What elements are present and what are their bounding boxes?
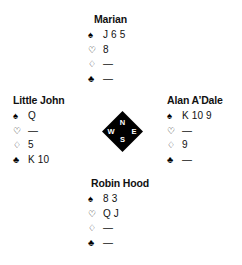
club-icon: ♣	[88, 236, 103, 251]
heart-icon: ♡	[167, 124, 182, 139]
south-diamonds-cards: —	[103, 221, 113, 236]
bridge-hand-diagram: Marian ♠ J 6 5 ♡ 8 ♢ — ♣ — Little John ♠…	[0, 0, 242, 265]
compass-label-west: W	[106, 128, 116, 136]
spade-icon: ♠	[88, 28, 103, 43]
south-clubs-cards: —	[103, 236, 113, 251]
suit-row-east-diamonds: ♢ 9	[167, 138, 223, 153]
suit-row-north-spades: ♠ J 6 5	[88, 28, 127, 43]
west-spades-cards: Q	[28, 109, 36, 124]
hand-east: Alan A’Dale ♠ K 10 9 ♡ — ♢ 9 ♣ —	[167, 94, 223, 167]
east-hearts-cards: —	[182, 124, 192, 139]
player-name-south: Robin Hood	[88, 177, 149, 189]
west-hearts-cards: —	[28, 124, 38, 139]
hand-west: Little John ♠ Q ♡ — ♢ 5 ♣ K 10	[13, 94, 64, 167]
north-spades-cards: J 6 5	[103, 28, 125, 43]
heart-icon: ♡	[88, 43, 103, 58]
suit-row-west-hearts: ♡ —	[13, 124, 64, 139]
suit-row-north-diamonds: ♢ —	[88, 57, 127, 72]
diamond-icon: ♢	[88, 57, 103, 72]
west-clubs-cards: K 10	[28, 153, 49, 168]
north-clubs-cards: —	[103, 72, 113, 87]
suit-row-south-clubs: ♣ —	[88, 236, 149, 251]
player-name-east: Alan A’Dale	[167, 94, 223, 106]
spade-icon: ♠	[88, 192, 103, 207]
spade-icon: ♠	[13, 109, 28, 124]
suit-row-west-clubs: ♣ K 10	[13, 153, 64, 168]
diamond-icon: ♢	[13, 138, 28, 153]
east-diamonds-cards: 9	[182, 138, 188, 153]
club-icon: ♣	[167, 153, 182, 168]
south-hearts-cards: Q J	[103, 207, 119, 222]
suit-row-west-spades: ♠ Q	[13, 109, 64, 124]
club-icon: ♣	[88, 72, 103, 87]
suit-row-east-spades: ♠ K 10 9	[167, 109, 223, 124]
heart-icon: ♡	[88, 207, 103, 222]
suit-row-east-clubs: ♣ —	[167, 153, 223, 168]
west-diamonds-cards: 5	[28, 138, 34, 153]
heart-icon: ♡	[13, 124, 28, 139]
suit-row-north-clubs: ♣ —	[88, 72, 127, 87]
east-spades-cards: K 10 9	[182, 109, 212, 124]
player-name-north: Marian	[88, 13, 127, 25]
compass-label-east: E	[129, 128, 139, 136]
suit-row-west-diamonds: ♢ 5	[13, 138, 64, 153]
diamond-icon: ♢	[88, 221, 103, 236]
north-hearts-cards: 8	[103, 43, 109, 58]
compass-label-south: S	[118, 136, 128, 144]
suit-row-north-hearts: ♡ 8	[88, 43, 127, 58]
suit-row-south-hearts: ♡ Q J	[88, 207, 149, 222]
east-clubs-cards: —	[182, 153, 192, 168]
player-name-west: Little John	[13, 94, 64, 106]
compass-label-north: N	[118, 119, 128, 127]
spade-icon: ♠	[167, 109, 182, 124]
diamond-icon: ♢	[167, 138, 182, 153]
suit-row-east-hearts: ♡ —	[167, 124, 223, 139]
suit-row-south-spades: ♠ 8 3	[88, 192, 149, 207]
north-diamonds-cards: —	[103, 57, 113, 72]
suit-row-south-diamonds: ♢ —	[88, 221, 149, 236]
south-spades-cards: 8 3	[103, 192, 117, 207]
compass-rose: N W E S	[102, 111, 143, 152]
hand-north: Marian ♠ J 6 5 ♡ 8 ♢ — ♣ —	[88, 13, 127, 86]
club-icon: ♣	[13, 153, 28, 168]
hand-south: Robin Hood ♠ 8 3 ♡ Q J ♢ — ♣ —	[88, 177, 149, 250]
